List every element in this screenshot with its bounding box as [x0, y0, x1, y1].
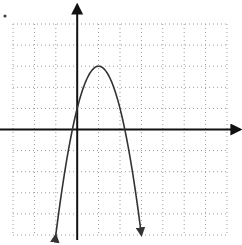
coordinate-plane-chart: [0, 0, 242, 245]
bullet-marker: [3, 14, 6, 17]
parabola-curve: [56, 66, 142, 235]
